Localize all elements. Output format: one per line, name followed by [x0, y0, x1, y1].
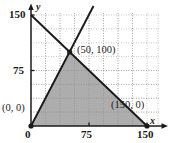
x-tick-label-75: 75 — [81, 129, 92, 140]
point-label-x-intercept: (150, 0) — [111, 100, 144, 111]
x-axis-label: x — [150, 116, 155, 126]
point-label-vertex: (50, 100) — [77, 45, 116, 56]
y-tick-label-75: 75 — [13, 65, 24, 76]
x-tick-label-0: 0 — [25, 129, 31, 140]
y-axis-label: y — [36, 2, 40, 12]
point-vertex-50-100 — [67, 49, 72, 54]
x-axis-arrow-icon — [162, 123, 169, 128]
y-axis-arrow-icon — [28, 4, 33, 11]
point-label-origin: (0, 0) — [2, 103, 25, 114]
y-tick-label-150: 150 — [9, 9, 26, 20]
x-tick-label-150: 150 — [137, 129, 154, 140]
plot-canvas — [0, 0, 171, 143]
graph-figure: 150 75 0 75 150 (0, 0) (50, 100) (150, 0… — [0, 0, 171, 143]
